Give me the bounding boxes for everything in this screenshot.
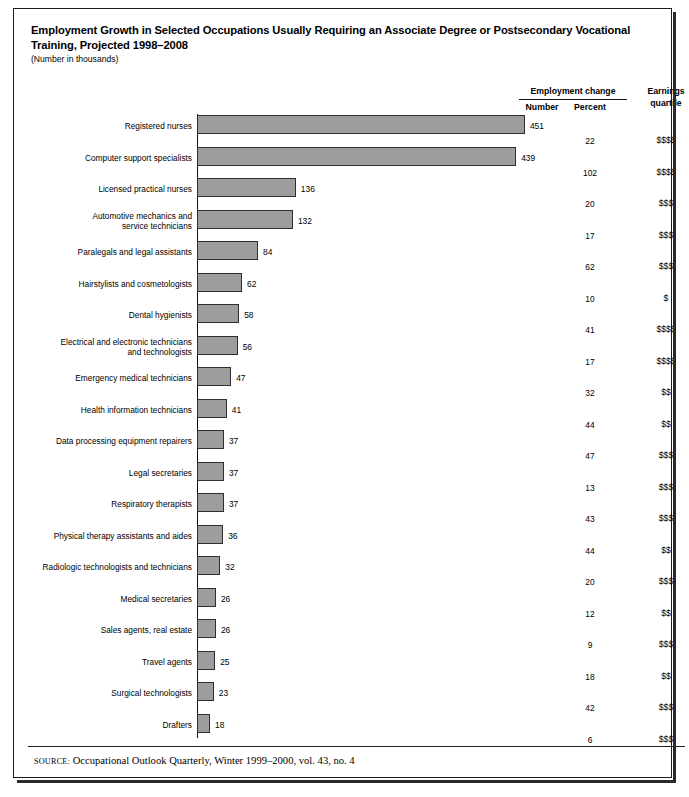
bar xyxy=(197,241,258,260)
earnings-quartile-value: $$$ xyxy=(636,513,689,523)
bar xyxy=(197,115,525,134)
category-label-line: service technicians xyxy=(0,221,192,231)
percent-value: 22 xyxy=(560,136,620,146)
bar-value-label: 136 xyxy=(301,184,315,194)
category-label: Paralegals and legal assistants xyxy=(0,247,192,257)
category-label: Data processing equipment repairers xyxy=(0,436,192,446)
percent-value: 42 xyxy=(560,703,620,713)
category-label-line: Paralegals and legal assistants xyxy=(0,247,192,257)
category-label-line: Electrical and electronic technicians xyxy=(0,337,192,347)
bar xyxy=(197,525,223,544)
bar-value-label: 62 xyxy=(247,279,256,289)
chart-row: Surgical technologists2342$$$ xyxy=(14,682,673,714)
bar xyxy=(197,430,224,449)
percent-value: 9 xyxy=(560,640,620,650)
earnings-quartile-value: $$$ xyxy=(636,576,689,586)
earnings-quartile-value: $$$ xyxy=(636,702,689,712)
earnings-quartile-value: $$$$ xyxy=(636,167,689,177)
chart-row: Drafters186$$$ xyxy=(14,714,673,746)
category-label-line: Sales agents, real estate xyxy=(0,625,192,635)
percent-value: 44 xyxy=(560,546,620,556)
bar-value-label: 26 xyxy=(221,594,230,604)
earnings-quartile-value: $$$ xyxy=(636,734,689,744)
bar-value-label: 32 xyxy=(225,562,234,572)
earnings-quartile-value: $$ xyxy=(636,545,689,555)
bar xyxy=(197,556,220,575)
bar xyxy=(197,651,215,670)
source-note: SOURCE: Occupational Outlook Quarterly, … xyxy=(34,755,355,766)
chart-row: Respiratory therapists3743$$$ xyxy=(14,493,673,525)
category-label: Drafters xyxy=(0,720,192,730)
percent-value: 41 xyxy=(560,325,620,335)
bar-value-label: 25 xyxy=(220,657,229,667)
earnings-quartile-value: $$$ xyxy=(636,198,689,208)
percent-value: 17 xyxy=(560,357,620,367)
source-divider xyxy=(28,746,685,747)
category-label-line: Health information technicians xyxy=(0,405,192,415)
chart-row: Hairstylists and cosmetologists6210$ xyxy=(14,273,673,305)
chart-row: Health information technicians4144$$ xyxy=(14,399,673,431)
chart-row: Legal secretaries3713$$$ xyxy=(14,462,673,494)
column-header-employment-change: Employment change xyxy=(519,86,627,96)
chart-row: Computer support specialists439102$$$$ xyxy=(14,147,673,179)
bar-value-label: 37 xyxy=(229,499,238,509)
bar xyxy=(197,619,216,638)
chart-row: Dental hygienists5841$$$$ xyxy=(14,304,673,336)
category-label-line: Licensed practical nurses xyxy=(0,184,192,194)
percent-value: 20 xyxy=(560,199,620,209)
bar-value-label: 84 xyxy=(263,247,272,257)
chart-frame: Employment Growth in Selected Occupation… xyxy=(13,8,672,778)
chart-row: Physical therapy assistants and aides364… xyxy=(14,525,673,557)
earnings-quartile-value: $$ xyxy=(636,387,689,397)
category-label: Electrical and electronic techniciansand… xyxy=(0,337,192,357)
category-label-line: Travel agents xyxy=(0,657,192,667)
source-text: Occupational Outlook Quarterly, Winter 1… xyxy=(73,755,355,766)
earnings-quartile-value: $$$ xyxy=(636,639,689,649)
header-rule xyxy=(519,99,627,100)
bar-value-label: 132 xyxy=(298,216,312,226)
percent-value: 44 xyxy=(560,420,620,430)
percent-value: 6 xyxy=(560,735,620,745)
percent-value: 13 xyxy=(560,483,620,493)
earnings-quartile-value: $$$ xyxy=(636,450,689,460)
bar xyxy=(197,147,516,166)
category-label: Physical therapy assistants and aides xyxy=(0,531,192,541)
bar xyxy=(197,210,293,229)
category-label: Sales agents, real estate xyxy=(0,625,192,635)
frame-shadow-right xyxy=(673,12,676,783)
category-label: Health information technicians xyxy=(0,405,192,415)
category-label-line: Physical therapy assistants and aides xyxy=(0,531,192,541)
chart-row: Paralegals and legal assistants8462$$$ xyxy=(14,241,673,273)
category-label: Radiologic technologists and technicians xyxy=(0,562,192,572)
bar-value-label: 47 xyxy=(236,373,245,383)
earnings-header-line2: quartile xyxy=(636,98,689,110)
bar xyxy=(197,714,210,733)
bar xyxy=(197,399,227,418)
category-label: Licensed practical nurses xyxy=(0,184,192,194)
category-label-line: Computer support specialists xyxy=(0,153,192,163)
earnings-quartile-value: $$$$ xyxy=(636,135,689,145)
percent-value: 62 xyxy=(560,262,620,272)
earnings-quartile-value: $$$ xyxy=(636,261,689,271)
category-label-line: Data processing equipment repairers xyxy=(0,436,192,446)
bar-value-label: 36 xyxy=(228,531,237,541)
column-header-percent: Percent xyxy=(560,102,620,112)
bar xyxy=(197,336,238,355)
category-label: Legal secretaries xyxy=(0,468,192,478)
earnings-quartile-value: $$ xyxy=(636,419,689,429)
category-label-line: Dental hygienists xyxy=(0,310,192,320)
earnings-quartile-value: $ xyxy=(636,293,689,303)
category-label: Registered nurses xyxy=(0,121,192,131)
earnings-header-line1: Earnings xyxy=(636,86,689,98)
bar xyxy=(197,588,216,607)
percent-value: 17 xyxy=(560,231,620,241)
bar-value-label: 41 xyxy=(232,405,241,415)
bar-value-label: 26 xyxy=(221,625,230,635)
percent-value: 20 xyxy=(560,577,620,587)
bar xyxy=(197,493,224,512)
category-label-line: Medical secretaries xyxy=(0,594,192,604)
category-label: Respiratory therapists xyxy=(0,499,192,509)
category-label: Medical secretaries xyxy=(0,594,192,604)
category-label-line: Drafters xyxy=(0,720,192,730)
chart-subtitle: (Number in thousands) xyxy=(31,54,118,64)
